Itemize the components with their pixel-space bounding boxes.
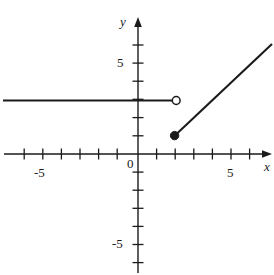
origin-label: 0 <box>127 157 134 170</box>
x-axis-arrow-icon <box>262 150 272 158</box>
closed-dot-endpoint-marker <box>170 131 178 139</box>
coordinate-plane-svg <box>0 0 274 275</box>
y-tick-label-neg5: -5 <box>112 237 123 250</box>
y-axis-label: y <box>120 15 126 28</box>
y-axis-arrow-icon <box>134 17 142 27</box>
x-axis-label: x <box>264 160 270 173</box>
axes-group <box>4 17 272 273</box>
open-circle-endpoint-marker <box>172 97 180 105</box>
x-tick-label-pos5: 5 <box>227 166 234 179</box>
x-tick-label-neg5: -5 <box>34 166 45 179</box>
slanted-ray-segment <box>175 44 272 135</box>
graph-figure: -5 5 5 -5 0 y x <box>0 0 274 275</box>
y-tick-label-pos5: 5 <box>117 56 124 69</box>
